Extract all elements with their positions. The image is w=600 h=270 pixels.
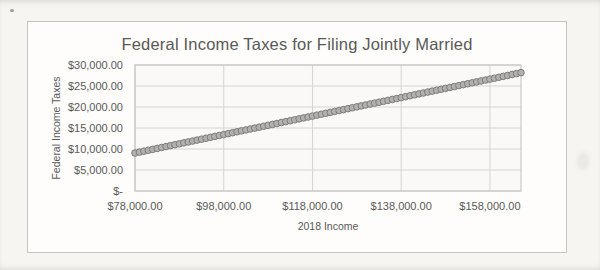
y-tick-label: $10,000.00 (68, 143, 123, 155)
x-tick-label: $98,000.00 (196, 200, 251, 212)
scan-speck (10, 9, 14, 12)
y-tick-label: $20,000.00 (68, 101, 123, 113)
x-tick-label: $78,000.00 (107, 200, 162, 212)
plot-area: $-$5,000.00$10,000.00$15,000.00$20,000.0… (28, 22, 568, 254)
scanned-page: Federal Income Taxes for Filing Jointly … (0, 0, 600, 270)
y-tick-label: $5,000.00 (74, 164, 123, 176)
data-point-marker (518, 69, 525, 76)
y-tick-label: $25,000.00 (68, 80, 123, 92)
x-tick-label: $118,000.00 (282, 200, 342, 212)
scan-smudge (577, 152, 589, 170)
y-tick-label: $- (113, 185, 123, 197)
y-tick-label: $15,000.00 (68, 122, 123, 134)
x-tick-label: $158,000.00 (459, 200, 520, 212)
x-tick-label: $138,000.00 (371, 200, 432, 212)
y-tick-label: $30,000.00 (68, 59, 123, 71)
chart: Federal Income Taxes for Filing Jointly … (27, 21, 567, 253)
